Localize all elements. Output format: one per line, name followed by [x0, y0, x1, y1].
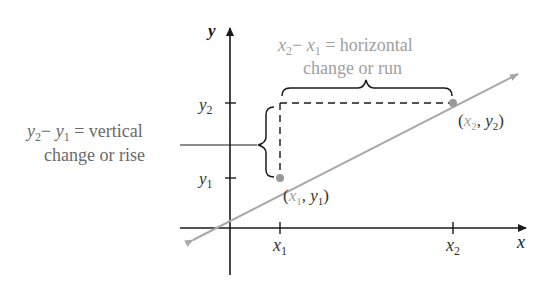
slope-diagram: y x y2 y1 x1 x2 (x1, y1) (x2, y2) x2− x1… — [0, 0, 553, 285]
point-1 — [276, 174, 284, 182]
rise-brace — [258, 107, 274, 177]
rise-annotation-line1: y2− y1 = vertical — [25, 121, 143, 144]
x-axis-label: x — [516, 232, 525, 252]
run-annotation-line2: change or run — [303, 58, 402, 78]
y-axis-label: y — [206, 21, 216, 40]
rise-annotation-line2: change or rise — [44, 145, 145, 165]
point-2 — [449, 99, 457, 107]
y2-tick-label: y2 — [197, 95, 213, 117]
point-2-label: (x2, y2) — [458, 111, 504, 132]
run-annotation-line1: x2− x1 = horizontal — [277, 35, 413, 58]
point-1-label: (x1, y1) — [283, 186, 329, 207]
slope-line — [193, 74, 518, 240]
y1-tick-label: y1 — [197, 169, 213, 191]
run-brace — [282, 80, 452, 96]
x1-tick-label: x1 — [272, 235, 287, 258]
x2-tick-label: x2 — [445, 235, 460, 258]
